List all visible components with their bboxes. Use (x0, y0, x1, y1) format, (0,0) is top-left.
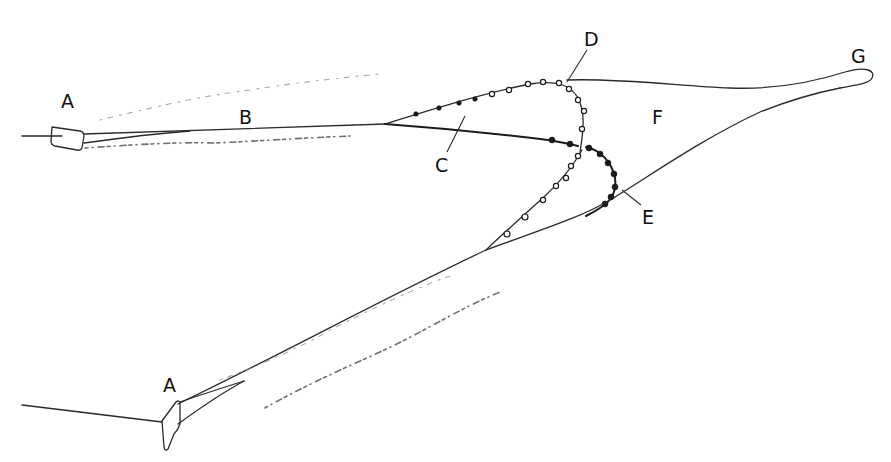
label-g: G (851, 45, 866, 67)
lower-headline-floats (504, 153, 581, 237)
net-body-upper-edge (567, 69, 873, 88)
bottom-boat-tow-line-front (22, 405, 162, 422)
sinker-marker (457, 101, 462, 106)
leader-e (622, 190, 641, 205)
sinker-marker (549, 137, 555, 143)
headline-floats (489, 79, 586, 131)
sinker-marker (611, 171, 617, 177)
float-marker (556, 80, 561, 85)
float-marker (506, 87, 511, 92)
sinker-marker (437, 106, 442, 111)
label-b: B (239, 106, 252, 128)
sinker-marker (605, 160, 611, 166)
net-body-lower-edge (486, 88, 840, 250)
sinker-marker (567, 141, 573, 147)
float-marker (579, 126, 584, 131)
sinker-marker (414, 112, 419, 117)
sinker-marker (612, 184, 618, 190)
label-f: F (652, 106, 663, 128)
leader-d (567, 50, 587, 82)
float-marker (525, 81, 530, 86)
label-c: C (435, 154, 448, 176)
trawl-diagram: A B D C E (0, 0, 891, 462)
warp-bottom (178, 250, 486, 404)
float-marker (553, 183, 558, 188)
sinker-marker (473, 97, 478, 102)
warp-b-top (84, 124, 385, 134)
label-e: E (642, 206, 654, 228)
float-marker (540, 197, 545, 202)
label-a-top: A (61, 90, 74, 112)
sinker-marker (597, 151, 603, 157)
bottom-boat-wake-light (220, 276, 450, 380)
float-marker (504, 231, 510, 237)
top-boat-hull (51, 127, 84, 150)
warp-bottom-upper (180, 381, 244, 402)
float-marker (568, 163, 573, 168)
top-boat: A (22, 90, 84, 150)
float-marker (566, 86, 571, 91)
float-marker (563, 175, 568, 180)
bridle-c (385, 124, 578, 146)
float-marker (581, 108, 586, 113)
float-marker (575, 97, 580, 102)
sinker-marker (586, 145, 592, 151)
bottom-boat-hull (162, 401, 180, 450)
float-marker (489, 91, 494, 96)
float-marker (540, 79, 545, 84)
label-a-bottom: A (163, 374, 176, 396)
float-marker (575, 153, 580, 158)
bottom-boat-wake (265, 292, 500, 408)
bottom-boat: A (22, 374, 180, 450)
float-marker (522, 214, 528, 220)
label-d: D (584, 28, 599, 50)
leader-c (447, 116, 465, 152)
lower-headline (486, 150, 582, 250)
